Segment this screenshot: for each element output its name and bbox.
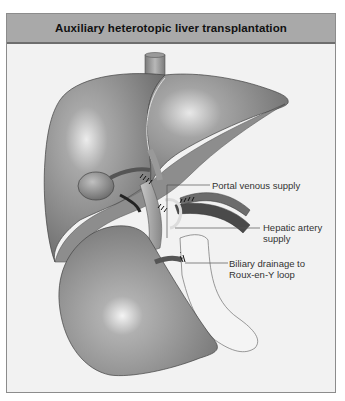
label-hepatic-artery-line1: Hepatic artery (263, 222, 322, 233)
inferior-vena-cava (145, 53, 165, 78)
label-portal-venous-supply: Portal venous supply (212, 180, 300, 191)
label-biliary-drainage-line1: Biliary drainage to (229, 258, 305, 269)
label-hepatic-artery-line2: supply (263, 233, 290, 244)
liver-diagram (0, 0, 345, 401)
bile-duct (155, 258, 182, 262)
label-biliary-drainage-line2: Roux-en-Y loop (229, 269, 295, 280)
gallbladder (78, 172, 114, 200)
